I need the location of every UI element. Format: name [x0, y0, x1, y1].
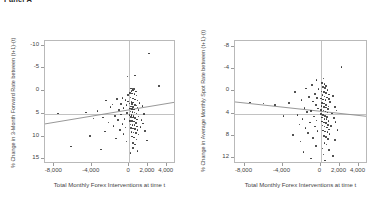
scatter-point	[135, 132, 137, 134]
scatter-point	[327, 108, 329, 110]
scatter-point	[133, 109, 135, 111]
x-tick-mark	[282, 163, 283, 166]
scatter-point	[308, 96, 310, 98]
x-tick-label: -4,000	[77, 167, 105, 173]
y-tick-mark	[231, 113, 234, 114]
scatter-point	[329, 101, 331, 103]
scatter-point	[320, 109, 322, 111]
y-tick-label: 8	[208, 131, 229, 137]
scatter-point	[113, 125, 115, 127]
scatter-point	[144, 130, 146, 132]
x-tick-label: -8,000	[230, 167, 258, 173]
y-axis-label-right: % Change in Average Monthly Spot Rate be…	[200, 30, 206, 172]
y-tick-label: 4	[208, 109, 229, 115]
scatter-point	[332, 155, 334, 157]
scatter-point	[307, 132, 309, 134]
scatter-point	[120, 114, 122, 116]
scatter-point	[328, 149, 330, 151]
scatter-point	[117, 119, 119, 121]
scatter-point	[120, 103, 122, 105]
scatter-point	[294, 91, 296, 93]
scatter-point	[89, 135, 91, 137]
scatter-point	[312, 137, 314, 139]
plot-area-right	[234, 40, 367, 163]
y-tick-label: 12	[208, 153, 229, 159]
scatter-point	[310, 158, 312, 160]
scatter-point	[333, 117, 335, 119]
y-tick-mark	[41, 158, 44, 159]
y-tick-mark	[231, 157, 234, 158]
x-axis-label-left: Total Monthly Forex Interventions at tim…	[32, 182, 187, 188]
scatter-point	[327, 138, 329, 140]
x-tick-mark	[320, 163, 321, 166]
scatter-point	[119, 129, 121, 131]
scatter-point	[325, 92, 327, 94]
scatter-point	[283, 115, 285, 117]
scatter-point	[314, 93, 316, 95]
scatter-point	[118, 109, 120, 111]
plot-area-left	[44, 40, 175, 163]
scatter-point	[134, 128, 136, 130]
x-tick-mark	[147, 163, 148, 166]
scatter-point	[126, 112, 128, 114]
chart-panel-right: % Change in Average Monthly Spot Rate be…	[192, 0, 383, 207]
scatter-point	[134, 144, 136, 146]
scatter-point	[148, 53, 150, 55]
y-tick-mark	[231, 68, 234, 69]
x-tick-mark	[339, 163, 340, 166]
y-tick-mark	[231, 135, 234, 136]
scatter-point	[100, 149, 102, 151]
scatter-point	[325, 104, 327, 106]
y-tick-label: 15	[18, 154, 39, 160]
scatter-point	[306, 111, 308, 113]
regression-fit-line	[45, 41, 175, 163]
y-tick-label: -4	[208, 64, 229, 70]
y-tick-label: -8	[208, 42, 229, 48]
x-tick-label: -4,000	[268, 167, 296, 173]
x-tick-mark	[244, 163, 245, 166]
scatter-point	[330, 125, 332, 127]
regression-fit-line	[235, 41, 367, 163]
scatter-point	[97, 110, 99, 112]
x-axis-label-right: Total Monthly Forex Interventions at tim…	[222, 182, 379, 188]
scatter-point	[131, 103, 133, 105]
x-tick-mark	[53, 163, 54, 166]
scatter-point	[130, 152, 132, 154]
y-tick-label: 5	[18, 109, 39, 115]
y-tick-label: -5	[18, 63, 39, 69]
y-tick-label: 10	[18, 132, 39, 138]
y-tick-label: 0	[18, 86, 39, 92]
y-tick-mark	[41, 67, 44, 68]
scatter-point	[332, 95, 334, 97]
scatter-point	[310, 110, 312, 112]
scatter-point	[134, 93, 136, 95]
scatter-point	[142, 105, 144, 107]
scatter-point	[292, 134, 294, 136]
scatter-point	[302, 118, 304, 120]
scatter-point	[316, 97, 318, 99]
scatter-point	[328, 98, 330, 100]
scatter-point	[132, 111, 134, 113]
scatter-point	[334, 106, 336, 108]
scatter-point	[328, 129, 330, 131]
y-tick-label: 0	[208, 86, 229, 92]
y-tick-label: -10	[18, 41, 39, 47]
scatter-point	[312, 101, 314, 103]
x-tick-mark	[166, 163, 167, 166]
y-axis-label-left: % Change in 3-Month Forward Rate between…	[10, 38, 16, 168]
scatter-point	[114, 115, 116, 117]
scatter-point	[288, 102, 290, 104]
scatter-point	[334, 139, 336, 141]
scatter-point	[143, 113, 145, 115]
scatter-point	[131, 93, 133, 95]
figure-root: Panel A % Change in 3-Month Forward Rate…	[0, 0, 383, 207]
scatter-point	[146, 140, 148, 142]
y-tick-mark	[41, 45, 44, 46]
scatter-point	[132, 147, 134, 149]
scatter-point	[136, 119, 138, 121]
x-tick-label: 4,000	[344, 167, 372, 173]
scatter-point	[135, 122, 137, 124]
y-tick-mark	[231, 90, 234, 91]
scatter-point	[116, 98, 118, 100]
scatter-point	[322, 86, 324, 88]
